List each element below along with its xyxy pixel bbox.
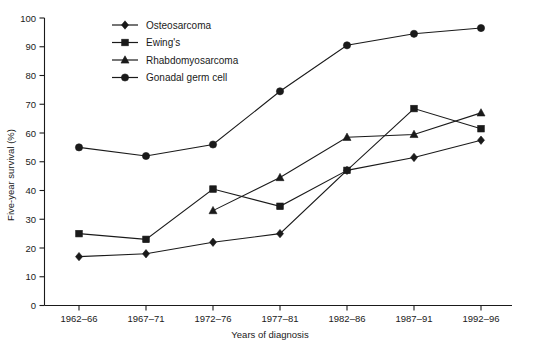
x-tick-label: 1967–71 <box>128 313 165 324</box>
y-tick-label: 0 <box>31 300 36 311</box>
data-point-triangle <box>477 109 485 116</box>
chart-container: 0102030405060708090100 Five-year surviva… <box>0 0 534 351</box>
series-line <box>213 113 481 211</box>
x-tick-label: 1962–66 <box>61 313 98 324</box>
data-point-circle <box>75 144 82 151</box>
series-rhabdomyosarcoma <box>209 109 485 214</box>
x-tick-label: 1982–86 <box>329 313 366 324</box>
data-point-square <box>344 167 351 174</box>
data-point-circle <box>142 152 149 159</box>
data-point-square <box>210 186 217 193</box>
x-axis-tick-labels: 1962–661967–711972–761977–811982–861987–… <box>61 313 500 324</box>
data-point-triangle <box>276 173 284 180</box>
data-point-diamond <box>143 250 150 258</box>
data-point-circle <box>477 24 484 31</box>
circle-marker-icon <box>121 74 128 81</box>
data-point-circle <box>276 88 283 95</box>
y-tick-label: 100 <box>20 13 36 24</box>
data-point-circle <box>209 141 216 148</box>
x-axis-title: Years of diagnosis <box>231 329 309 340</box>
chart-legend: OsteosarcomaEwing'sRhabdomyosarcomaGonad… <box>112 20 239 84</box>
square-marker-icon <box>122 39 129 46</box>
data-point-diamond <box>478 136 485 144</box>
data-point-square <box>478 125 485 132</box>
data-point-triangle <box>209 206 217 213</box>
y-tick-label: 90 <box>25 41 36 52</box>
diamond-marker-icon <box>122 21 129 29</box>
y-tick-label: 60 <box>25 128 36 139</box>
y-tick-label: 30 <box>25 214 36 225</box>
x-tick-label: 1992–96 <box>463 313 500 324</box>
legend-label: Osteosarcoma <box>146 20 211 31</box>
line-chart: 0102030405060708090100 Five-year surviva… <box>0 0 534 351</box>
x-tick-label: 1977–81 <box>262 313 299 324</box>
data-point-square <box>411 105 418 112</box>
legend-label: Gonadal germ cell <box>146 72 227 83</box>
x-tick-label: 1987–91 <box>396 313 433 324</box>
data-point-diamond <box>76 252 83 260</box>
y-axis-ticks <box>40 18 45 306</box>
y-tick-label: 80 <box>25 70 36 81</box>
y-tick-label: 40 <box>25 185 36 196</box>
data-point-circle <box>343 42 350 49</box>
data-point-diamond <box>210 238 217 246</box>
data-point-square <box>76 230 83 237</box>
legend-item: Rhabdomyosarcoma <box>112 55 239 66</box>
data-point-square <box>143 236 150 243</box>
y-axis-tick-labels: 0102030405060708090100 <box>20 13 36 312</box>
legend-item: Osteosarcoma <box>112 20 211 31</box>
series-gonadal-germ-cell <box>75 24 484 159</box>
y-axis: 0102030405060708090100 Five-year surviva… <box>5 13 45 312</box>
data-point-circle <box>410 30 417 37</box>
data-point-square <box>277 203 284 210</box>
x-axis-ticks <box>79 306 481 311</box>
x-axis: 1962–661967–711972–761977–811982–861987–… <box>45 306 513 341</box>
y-axis-title: Five-year survival (%) <box>5 129 16 221</box>
data-point-diamond <box>411 153 418 161</box>
x-tick-label: 1972–76 <box>195 313 232 324</box>
y-tick-label: 70 <box>25 99 36 110</box>
y-tick-label: 10 <box>25 271 36 282</box>
y-tick-label: 20 <box>25 243 36 254</box>
legend-label: Rhabdomyosarcoma <box>146 55 239 66</box>
legend-item: Gonadal germ cell <box>112 72 227 83</box>
y-tick-label: 50 <box>25 156 36 167</box>
legend-item: Ewing's <box>112 37 180 48</box>
legend-label: Ewing's <box>146 37 180 48</box>
